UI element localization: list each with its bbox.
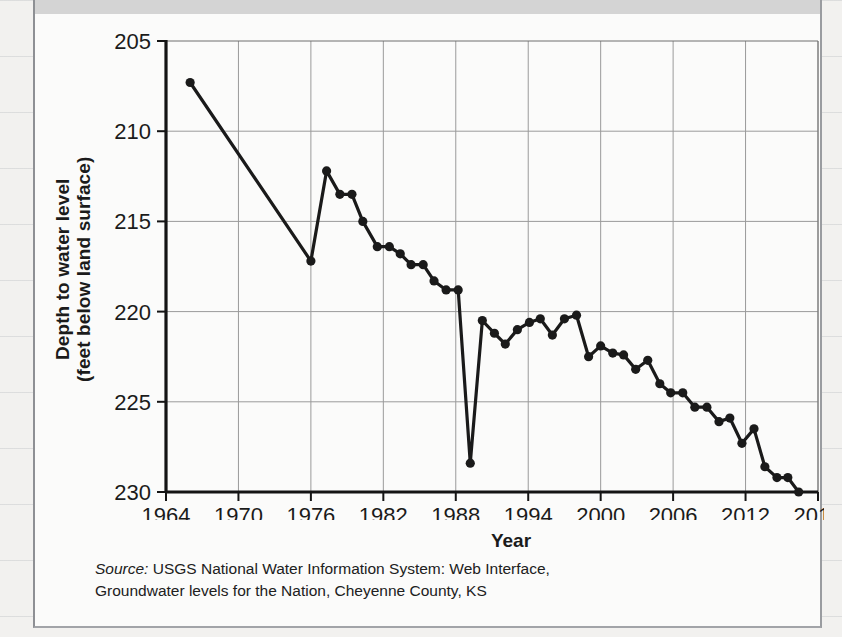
y-tick-label-225: 225: [114, 390, 151, 415]
data-point: [794, 487, 803, 496]
x-axis-title: Year: [166, 530, 842, 552]
data-point: [560, 314, 569, 323]
source-line1: USGS National Water Information System: …: [148, 560, 549, 577]
data-point: [373, 242, 382, 251]
data-point: [466, 459, 475, 468]
y-tick-label-230: 230: [114, 480, 151, 505]
data-point: [525, 318, 534, 327]
x-tick-label-2000: 2000: [576, 503, 625, 520]
data-point: [584, 352, 593, 361]
data-point: [322, 166, 331, 175]
data-point: [572, 311, 581, 320]
data-point: [631, 365, 640, 374]
data-point: [396, 249, 405, 258]
tick-marks: [157, 41, 818, 501]
y-axis-title: Depth to water level (feet below land su…: [52, 119, 95, 419]
data-point: [347, 190, 356, 199]
x-tick-label-2018: 2018: [794, 503, 824, 520]
data-point: [536, 314, 545, 323]
source-line2: Groundwater levels for the Nation, Cheye…: [95, 582, 487, 599]
data-point: [186, 78, 195, 87]
data-point: [772, 473, 781, 482]
data-point: [608, 348, 617, 357]
line-chart: 2052102152202252301964197019761982198819…: [35, 0, 824, 520]
y-axis-title-line2: (feet below land surface): [73, 119, 94, 419]
data-point: [749, 424, 758, 433]
data-point: [655, 379, 664, 388]
data-point: [442, 285, 451, 294]
data-point: [760, 462, 769, 471]
data-point: [358, 217, 367, 226]
y-tick-label-215: 215: [114, 209, 151, 234]
data-point: [548, 330, 557, 339]
y-tick-label-210: 210: [114, 119, 151, 144]
data-line-series: [190, 82, 799, 492]
data-point: [619, 350, 628, 359]
data-point: [501, 339, 510, 348]
data-point: [429, 276, 438, 285]
data-point: [490, 329, 499, 338]
data-point: [335, 190, 344, 199]
data-point: [737, 439, 746, 448]
data-point: [385, 242, 394, 251]
data-point: [419, 260, 428, 269]
x-tick-label-1976: 1976: [286, 503, 335, 520]
data-point: [643, 356, 652, 365]
data-point: [513, 325, 522, 334]
data-point: [725, 413, 734, 422]
x-tick-label-1988: 1988: [431, 503, 480, 520]
x-tick-label-1982: 1982: [359, 503, 408, 520]
source-prefix: Source:: [95, 560, 148, 577]
data-point: [690, 403, 699, 412]
x-tick-label-1964: 1964: [142, 503, 191, 520]
x-tick-label-1970: 1970: [214, 503, 263, 520]
data-point: [702, 403, 711, 412]
y-tick-label-220: 220: [114, 300, 151, 325]
y-axis-title-line1: Depth to water level: [52, 119, 73, 419]
plot-area: 2052102152202252301964197019761982198819…: [35, 0, 824, 520]
data-point: [478, 316, 487, 325]
data-point: [306, 256, 315, 265]
data-point: [407, 260, 416, 269]
data-point: [678, 388, 687, 397]
x-tick-label-1994: 1994: [504, 503, 553, 520]
y-tick-label-205: 205: [114, 29, 151, 54]
data-point: [454, 285, 463, 294]
x-tick-label-2012: 2012: [721, 503, 770, 520]
data-point: [783, 473, 792, 482]
x-tick-label-2006: 2006: [649, 503, 698, 520]
data-point: [666, 388, 675, 397]
data-point: [714, 417, 723, 426]
data-point-markers: [186, 78, 804, 497]
data-point: [596, 341, 605, 350]
series-line-depth-to-water-level: [190, 82, 799, 492]
figure-panel: 2052102152202252301964197019761982198819…: [33, 0, 822, 628]
source-caption: Source: USGS National Water Information …: [95, 558, 815, 603]
